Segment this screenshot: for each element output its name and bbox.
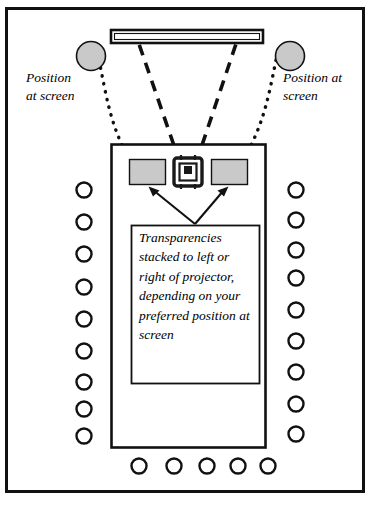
seat-circle [289, 397, 304, 412]
projection-screen [111, 30, 263, 43]
seat-circle [289, 365, 304, 380]
caption-box [132, 226, 260, 384]
seat-circle [77, 280, 92, 295]
seat-circle [289, 334, 304, 349]
seating-left-column [77, 183, 92, 444]
seat-circle [261, 459, 276, 474]
seating-right-column [289, 183, 304, 442]
seat-circle [289, 427, 304, 442]
seat-circle [200, 459, 215, 474]
seat-circle [77, 429, 92, 444]
transparency-stack-left [130, 160, 166, 185]
seat-circle [77, 312, 92, 327]
seat-circle [77, 402, 92, 417]
transparency-stack-right [212, 160, 248, 185]
room-layout-diagram [0, 0, 372, 513]
seat-circle [289, 243, 304, 258]
seat-circle [231, 459, 246, 474]
position-right-marker [276, 42, 305, 71]
diagram-canvas: Position at screen Position at screen Tr… [0, 0, 372, 513]
seat-circle [289, 271, 304, 286]
seat-circle [77, 183, 92, 198]
overhead-projector-icon [174, 155, 202, 189]
seat-circle [289, 183, 304, 198]
seat-circle [167, 459, 182, 474]
seat-circle [289, 303, 304, 318]
seat-circle [77, 247, 92, 262]
seat-circle [289, 213, 304, 228]
seat-circle [132, 459, 147, 474]
seat-circle [77, 344, 92, 359]
position-left-marker [77, 42, 106, 71]
seat-circle [77, 375, 92, 390]
seat-circle [77, 215, 92, 230]
